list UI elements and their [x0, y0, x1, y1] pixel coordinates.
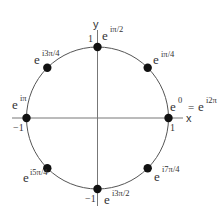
tick-y-pos: 1: [88, 33, 93, 44]
svg-text:iπ/4: iπ/4: [161, 49, 175, 59]
svg-text:e: e: [12, 97, 18, 112]
svg-text:e: e: [198, 99, 204, 114]
svg-text:e: e: [153, 52, 159, 67]
svg-text:iπ/2: iπ/2: [110, 24, 123, 34]
label-ipi4: e iπ/4: [153, 49, 175, 67]
svg-text:e: e: [23, 170, 29, 185]
svg-text:e: e: [102, 28, 108, 43]
label-i5pi4: e i5π/4: [23, 167, 48, 185]
label-i3pi2: e i3π/2: [104, 188, 130, 207]
tick-y-neg: −1: [85, 193, 96, 204]
svg-text:i7π/4: i7π/4: [162, 164, 180, 174]
unit-circle-diagram: x y 1 −1 1 −1 e 0 = e i2π e iπ/4 e iπ/2 …: [0, 0, 223, 212]
point-i3pi2: [93, 185, 101, 193]
svg-text:i3π/4: i3π/4: [42, 48, 60, 58]
point-e0: [164, 114, 172, 122]
svg-text:i5π/4: i5π/4: [30, 167, 48, 177]
y-axis-label: y: [93, 18, 99, 30]
svg-text:e: e: [154, 169, 160, 184]
tick-x-pos: 1: [170, 122, 175, 133]
tick-x-neg: −1: [13, 122, 24, 133]
point-ipi4: [144, 64, 152, 72]
label-e0: e 0 = e i2π: [170, 95, 218, 114]
svg-text:i2π: i2π: [206, 95, 218, 105]
label-ipi2: e iπ/2: [102, 24, 123, 43]
point-i3pi4: [43, 64, 51, 72]
label-i7pi4: e i7π/4: [154, 164, 180, 184]
svg-text:i3π/2: i3π/2: [112, 188, 130, 198]
svg-text:0: 0: [178, 95, 182, 105]
svg-text:iπ: iπ: [20, 93, 27, 103]
x-axis-label: x: [186, 112, 192, 124]
point-ipi2: [93, 43, 101, 51]
label-ipi: e iπ: [12, 93, 27, 112]
svg-text:=: =: [188, 101, 194, 113]
svg-text:e: e: [104, 192, 110, 207]
point-ipi: [22, 114, 30, 122]
svg-text:e: e: [34, 52, 40, 67]
svg-text:e: e: [170, 99, 176, 114]
point-i7pi4: [144, 164, 152, 172]
